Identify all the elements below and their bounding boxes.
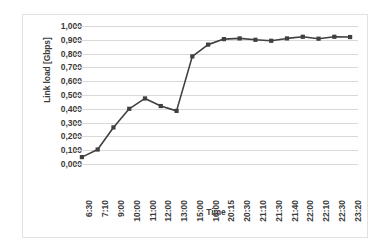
data-point-marker: 22:30 — 0.922 <box>332 35 336 39</box>
data-point-marker: 21:30 — 0.893 <box>269 39 273 43</box>
x-axis-tick-labels: 6:307:109:0010:0011:0012:0013:0015:0016:… <box>74 166 358 204</box>
data-point-marker: 16:00 — 0.865 <box>206 43 210 47</box>
data-point-marker: 10:00 — 0.4 <box>127 107 131 111</box>
data-point-marker: 13:00 — 0.385 <box>174 109 178 113</box>
data-point-marker: 20:15 — 0.905 <box>222 37 226 41</box>
chart-figure: Link load [Gbps] 1,0000,9000,8000,7000,6… <box>22 14 368 238</box>
data-point-marker: 6:30 — 0.05 <box>80 155 84 159</box>
gridline <box>74 164 358 165</box>
data-point-marker: 12:00 — 0.42 <box>159 104 163 108</box>
data-point-marker: 22:10 — 0.908 <box>316 37 320 41</box>
x-axis-title: Time <box>74 207 358 217</box>
series-line <box>82 37 350 157</box>
data-point-marker: 23:20 — 0.92 <box>348 35 352 39</box>
data-point-marker: 7:10 — 0.105 <box>96 147 100 151</box>
data-point-marker: 9:00 — 0.265 <box>111 125 115 129</box>
plot-area: 6:30 — 0.057:10 — 0.1059:00 — 0.26510:00… <box>74 26 358 164</box>
data-point-marker: 22:00 — 0.922 <box>301 35 305 39</box>
data-point-marker: 20:30 — 0.91 <box>238 36 242 40</box>
line-series: 6:30 — 0.057:10 — 0.1059:00 — 0.26510:00… <box>74 26 358 164</box>
data-point-marker: 11:00 — 0.475 <box>143 96 147 100</box>
data-point-marker: 21:40 — 0.91 <box>285 36 289 40</box>
data-point-marker: 15:00 — 0.78 <box>190 54 194 58</box>
data-point-marker: 21:10 — 0.9 <box>253 38 257 42</box>
